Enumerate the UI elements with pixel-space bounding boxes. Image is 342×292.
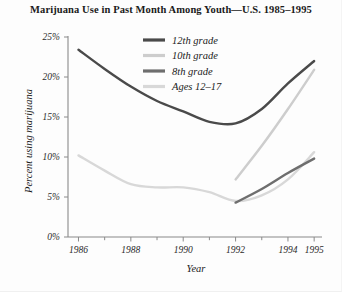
- series-line-ages-12-17: [78, 152, 314, 201]
- legend-label-8th-grade: 8th grade: [172, 66, 213, 77]
- y-axis: 0%5%10%15%20%25%: [43, 32, 68, 242]
- legend-label-10th-grade: 10th grade: [172, 50, 218, 61]
- chart-plot-area: 0%5%10%15%20%25% 19861988199019921994199…: [0, 0, 342, 292]
- x-tick-label: 1994: [278, 245, 297, 255]
- y-tick-label: 0%: [47, 232, 60, 242]
- y-tick-label: 20%: [43, 72, 61, 82]
- x-tick-label: 1995: [305, 245, 324, 255]
- chart-figure: Marijuana Use in Past Month Among Youth—…: [0, 0, 342, 292]
- x-tick-label: 1986: [69, 245, 88, 255]
- y-tick-label: 15%: [43, 112, 61, 122]
- x-tick-label: 1992: [226, 245, 245, 255]
- legend-label-12th-grade: 12th grade: [172, 35, 218, 46]
- chart-legend: 12th grade10th grade8th gradeAges 12–17: [143, 35, 222, 93]
- y-tick-label: 25%: [43, 32, 61, 42]
- x-tick-label: 1988: [121, 245, 140, 255]
- y-axis-title: Percent using marijuana: [23, 89, 34, 194]
- x-axis-title: Year: [187, 263, 207, 274]
- x-axis: 198619881990199219941995: [68, 237, 324, 255]
- y-tick-label: 5%: [47, 192, 60, 202]
- legend-label-ages-12-17: Ages 12–17: [171, 81, 222, 92]
- series-line-10th-grade: [236, 70, 315, 180]
- x-tick-label: 1990: [174, 245, 193, 255]
- y-tick-label: 10%: [43, 152, 61, 162]
